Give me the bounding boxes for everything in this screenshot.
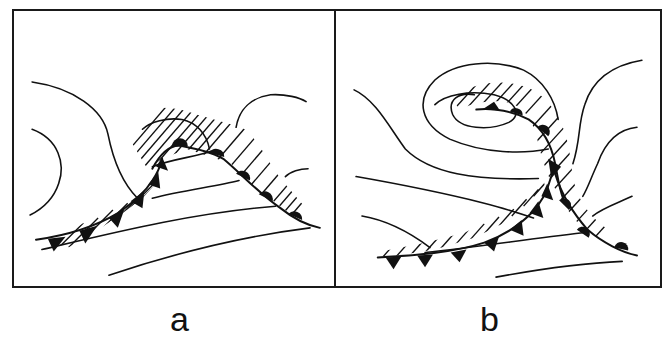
warm-front-semicircles: [172, 138, 302, 220]
cold-front: [378, 177, 551, 258]
panel-a: [12, 9, 336, 288]
isobar: [593, 196, 632, 216]
cold-front-triangles: [48, 157, 168, 252]
cold-front-triangles: [386, 183, 554, 269]
isobar: [583, 127, 637, 196]
isobar: [32, 82, 137, 198]
isobar: [285, 169, 308, 177]
isobar: [152, 181, 239, 199]
precipitation-hatching: [113, 100, 334, 228]
panel-b-label: b: [480, 302, 499, 336]
panel-b-drawing: [336, 11, 660, 286]
occluded-front: [476, 109, 563, 198]
isobar: [30, 129, 61, 215]
precipitation-hatching: [445, 65, 642, 239]
isobar: [356, 177, 533, 218]
isobar: [496, 261, 622, 277]
figure: a b: [0, 0, 670, 358]
isobar: [109, 228, 310, 275]
isobar: [362, 216, 430, 248]
panel-a-label: a: [170, 302, 189, 336]
isobar: [573, 60, 642, 163]
panel-b: [334, 9, 662, 288]
isobar: [236, 95, 306, 128]
isobar: [425, 233, 583, 253]
panel-a-drawing: [14, 11, 334, 286]
isobar: [42, 206, 276, 249]
